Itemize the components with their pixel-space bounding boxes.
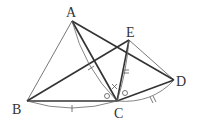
- label-C: C: [114, 106, 123, 121]
- label-D: D: [176, 74, 186, 89]
- label-B: B: [12, 102, 21, 117]
- angle-mark-circle-left: [105, 94, 110, 99]
- tick-CD-2: [153, 96, 156, 102]
- segment-ED: [129, 40, 174, 80]
- geometry-diagram: A E D B C: [0, 0, 198, 122]
- tick-AC: [88, 66, 94, 70]
- tick-CD-1: [150, 97, 153, 103]
- angle-mark-circle-right: [123, 91, 128, 96]
- label-E: E: [126, 25, 135, 40]
- label-A: A: [66, 5, 77, 20]
- segment-AB: [27, 21, 72, 101]
- segment-BE: [27, 40, 129, 101]
